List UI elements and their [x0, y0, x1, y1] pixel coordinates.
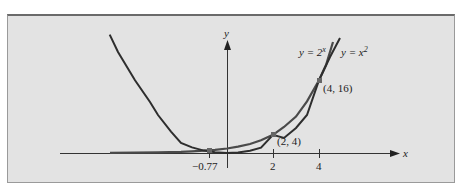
point-label-2-4: (2, 4) [277, 135, 301, 148]
curve-label-exponential-sup: x [321, 45, 326, 54]
point-marker-4-16 [317, 78, 322, 83]
curve-label-exponential-base: y = 2 [298, 46, 323, 58]
point-label-4-16: (4, 16) [323, 82, 353, 95]
graph: x y −0.77 2 4 (2, 4) (4, 16) y = 2x y = … [0, 0, 461, 191]
point-marker-2-4 [271, 132, 276, 137]
curve-label-square-base: y = x [340, 46, 364, 58]
x-axis-arrow-icon [390, 150, 400, 157]
x-axis-label: x [402, 147, 408, 159]
tick-label-2: 2 [270, 160, 276, 172]
curve-label-square: y = x2 [340, 45, 368, 58]
y-axis-label: y [223, 27, 229, 39]
point-marker-neg077 [207, 148, 212, 153]
y-axis-arrow-icon [224, 40, 231, 50]
tick-label-4: 4 [316, 160, 322, 172]
curve-label-exponential: y = 2x [298, 45, 326, 58]
tick-label-neg077: −0.77 [192, 160, 218, 172]
curve-label-square-sup: 2 [364, 45, 368, 54]
